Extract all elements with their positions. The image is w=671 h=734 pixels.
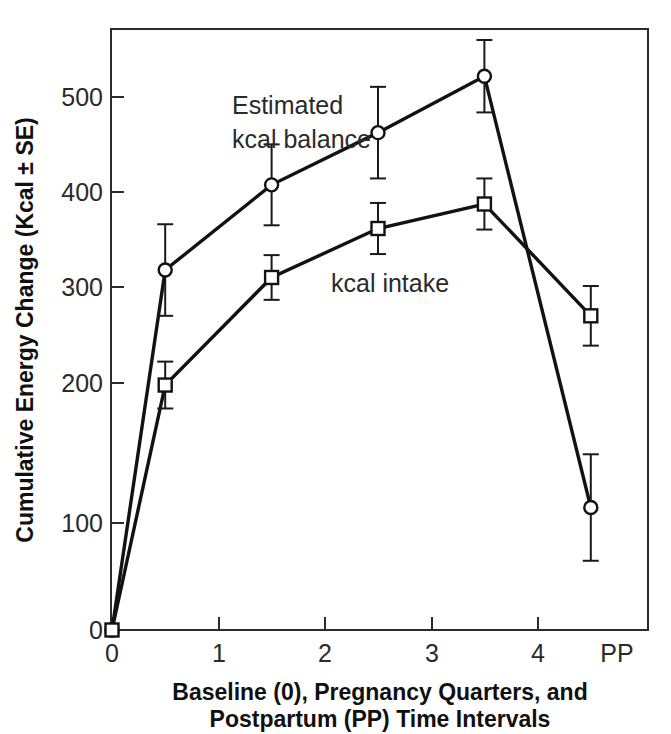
x-axis-ticks (112, 617, 538, 630)
x-tick-label-3: 3 (425, 639, 439, 667)
marker-square (584, 309, 597, 322)
marker-circle (584, 501, 597, 514)
annotation-kcal-intake-text: kcal intake (331, 269, 449, 297)
marker-square (372, 222, 385, 235)
marker-circle (478, 70, 491, 83)
annotation-kcal-intake: kcal intake (331, 269, 449, 297)
marker-circle (159, 264, 172, 277)
marker-square (478, 198, 491, 211)
x-tick-label-pp: PP (600, 639, 633, 667)
x-tick-labels: 0 1 2 3 4 PP (105, 639, 634, 667)
x-tick-label-1: 1 (212, 639, 226, 667)
x-tick-label-4: 4 (531, 639, 545, 667)
x-tick-label-0: 0 (105, 639, 119, 667)
marker-square (159, 379, 172, 392)
y-axis-ticks (111, 97, 124, 523)
annotation-estimated-line1: Estimated (232, 91, 343, 119)
plot-frame (111, 29, 648, 630)
x-axis-title-line2: Postpartum (PP) Time Intervals (210, 706, 551, 732)
chart-plot: 500 400 300 200 100 0 0 1 2 3 4 PP (0, 0, 671, 734)
y-tick-label-300: 300 (61, 273, 103, 301)
y-tick-label-400: 400 (61, 178, 103, 206)
marker-square (106, 624, 119, 637)
series-kcal-intake (106, 178, 599, 636)
series-line (112, 204, 591, 630)
y-axis-title: Cumulative Energy Change (Kcal ± SE) (12, 117, 38, 542)
annotation-estimated-kcal-balance: Estimated kcal balance (232, 91, 371, 153)
x-axis-title: Baseline (0), Pregnancy Quarters, and Po… (172, 679, 587, 732)
annotation-estimated-line2: kcal balance (232, 125, 371, 153)
marker-square (265, 271, 278, 284)
y-tick-label-100: 100 (61, 509, 103, 537)
y-tick-labels: 500 400 300 200 100 0 (61, 83, 103, 644)
x-axis-title-line1: Baseline (0), Pregnancy Quarters, and (172, 679, 587, 705)
marker-circle (265, 178, 278, 191)
series-line (112, 76, 591, 630)
y-tick-label-0: 0 (89, 616, 103, 644)
x-tick-label-2: 2 (318, 639, 332, 667)
figure-canvas: 500 400 300 200 100 0 0 1 2 3 4 PP (0, 0, 671, 734)
y-tick-label-500: 500 (61, 83, 103, 111)
y-tick-label-200: 200 (61, 369, 103, 397)
marker-circle (372, 126, 385, 139)
